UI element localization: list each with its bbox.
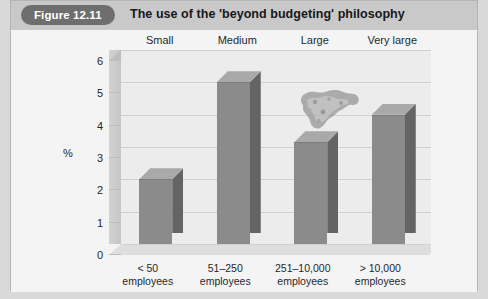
x-axis-tick-label: 51–250employees — [187, 262, 265, 288]
category-top-label: Small — [121, 34, 199, 46]
x-axis-tick-label: > 10,000employees — [342, 262, 420, 288]
x-axis-tick-label: < 50employees — [109, 262, 187, 288]
gridline — [121, 50, 431, 51]
category-top-label: Large — [276, 34, 354, 46]
figure-root: Figure 12.11 The use of the 'beyond budg… — [0, 0, 488, 299]
figure-title: The use of the 'beyond budgeting' philos… — [130, 7, 405, 21]
chart-plot-area: 0123456 % SmallMediumLargeVery large < 5… — [99, 50, 431, 255]
x-tick-line-2: employees — [109, 275, 187, 288]
gridline-riser — [109, 179, 121, 190]
gridline — [121, 244, 431, 245]
chart-body: 0123456 % SmallMediumLargeVery large < 5… — [11, 30, 477, 292]
y-axis-label: % — [63, 147, 73, 159]
x-tick-line-2: employees — [264, 275, 342, 288]
x-tick-line-1: 251–10,000 — [264, 262, 342, 275]
gridline-riser — [109, 115, 121, 126]
bar-column — [294, 131, 327, 244]
gridline-riser — [109, 147, 121, 158]
figure-number-badge: Figure 12.11 — [21, 5, 115, 25]
bar-column — [372, 104, 405, 244]
bar-column — [139, 168, 172, 244]
bar-side-face — [405, 104, 416, 233]
bar-front-face — [217, 82, 250, 244]
figure-card: Figure 12.11 The use of the 'beyond budg… — [10, 0, 478, 291]
gridline-riser — [109, 212, 121, 223]
x-tick-line-2: employees — [187, 275, 265, 288]
bar-front-face — [139, 179, 172, 244]
plot-floor — [109, 244, 431, 255]
gridline — [121, 82, 431, 83]
bar-column — [217, 71, 250, 244]
category-top-label: Medium — [199, 34, 277, 46]
bar-front-face — [294, 142, 327, 244]
figure-header: Figure 12.11 The use of the 'beyond budg… — [11, 1, 477, 30]
x-tick-line-2: employees — [342, 275, 420, 288]
x-tick-line-1: < 50 — [109, 262, 187, 275]
gridline-riser — [109, 82, 121, 93]
gridline-riser — [109, 244, 121, 255]
x-tick-line-1: > 10,000 — [342, 262, 420, 275]
x-tick-line-1: 51–250 — [187, 262, 265, 275]
bar-side-face — [327, 131, 338, 233]
bar-side-face — [250, 71, 261, 233]
bar-front-face — [372, 115, 405, 244]
category-top-label: Very large — [354, 34, 432, 46]
x-axis-tick-label: 251–10,000employees — [264, 262, 342, 288]
gridline-riser — [109, 50, 121, 61]
bar-side-face — [172, 168, 183, 233]
